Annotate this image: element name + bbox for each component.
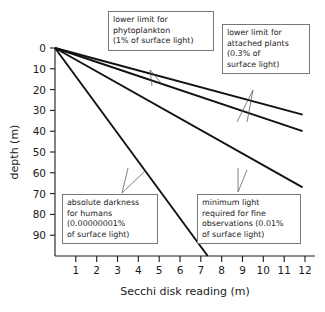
annotation-line: observations (0.01% [202,219,296,230]
annotation-line: of surface light) [67,230,153,241]
y-tick-label: 30 [33,104,46,116]
x-tick-label: 4 [135,264,142,276]
x-tick-label: 5 [156,264,163,276]
leader-lines [122,70,253,193]
y-axis: 0 10 20 30 40 50 60 70 80 90 depth (m) [8,42,55,256]
annotation-line: lower limit for [113,15,209,26]
annotation-line: (1% of surface light) [113,36,209,47]
annotation-line: (0.00000001% [67,219,153,230]
x-tick-label: 2 [93,264,100,276]
x-tick-label: 3 [114,264,121,276]
y-tick-label: 50 [33,146,46,158]
x-tick-label: 12 [298,264,311,276]
x-axis: 1 2 3 4 5 6 7 8 9 10 11 12 Secchi disk r… [55,256,315,298]
x-tick-label: 6 [177,264,184,276]
y-tick-label: 90 [33,229,46,241]
y-tick-label: 20 [33,84,46,96]
y-axis-title: depth (m) [8,125,21,180]
y-tick-label: 10 [33,63,46,75]
y-axis-ticks [50,48,55,235]
y-tick-label: 60 [33,167,46,179]
annotation-line: of surface light) [202,230,296,241]
x-axis-ticks [76,256,305,262]
y-tick-label: 80 [33,208,46,220]
x-tick-label: 9 [239,264,246,276]
annotation-line: attached plants [227,39,305,50]
annotation-line: surface light) [227,60,305,71]
annotation-line: (0.3% of [227,49,305,60]
annotation-line: lower limit for [227,28,305,39]
annotation-attached-plants: lower limit for attached plants (0.3% of… [222,24,310,74]
y-tick-label: 70 [33,188,46,200]
x-tick-label: 8 [218,264,225,276]
chart-figure: 0 10 20 30 40 50 60 70 80 90 depth (m) [0,0,325,312]
x-tick-label: 11 [278,264,291,276]
annotation-line: required for fine [202,209,296,220]
annotation-line: absolute darkness [67,198,153,209]
y-tick-label: 0 [39,42,46,54]
x-axis-title: Secchi disk reading (m) [120,285,250,298]
annotation-fine-observations: minimum light required for fine observat… [197,194,301,244]
annotation-line: phytoplankton [113,26,209,37]
y-tick-label: 40 [33,125,46,137]
annotation-line: minimum light [202,198,296,209]
annotation-phytoplankton: lower limit for phytoplankton (1% of sur… [108,11,214,51]
x-tick-label: 1 [72,264,79,276]
annotation-line: for humans [67,209,153,220]
annotation-absolute-darkness: absolute darkness for humans (0.00000001… [62,194,158,244]
x-tick-label: 10 [257,264,270,276]
x-tick-label: 7 [197,264,204,276]
